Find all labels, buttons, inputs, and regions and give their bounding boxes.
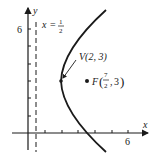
vertex-label: V(2, 3): [79, 51, 107, 63]
svg-text:7: 7: [104, 71, 108, 79]
y-tick-label-6: 6: [17, 24, 22, 35]
svg-text:=: =: [50, 19, 56, 30]
svg-text:2: 2: [59, 27, 63, 35]
directrix-label: x = 1 2: [41, 18, 64, 35]
x-axis: [12, 130, 148, 133]
y-axis-label: y: [32, 5, 38, 16]
svg-text:): ): [120, 74, 124, 89]
x-axis-label: x: [142, 119, 148, 130]
vertex-point: [59, 79, 63, 83]
svg-text:F: F: [91, 76, 99, 87]
svg-text:(: (: [99, 74, 103, 89]
x-tick-label-6: 6: [125, 136, 130, 147]
svg-text:x: x: [41, 19, 47, 30]
svg-text:2: 2: [104, 82, 108, 90]
svg-text:,: ,: [110, 76, 113, 87]
focus-label: F ( 7 2 , 3 ): [91, 71, 124, 90]
svg-text:3: 3: [114, 76, 119, 87]
parabola-diagram: x 6 y 6 x = 1 2 V(2, 3) F ( 7 2 , 3 ): [0, 0, 153, 159]
focus-point: [85, 79, 89, 83]
y-axis: [28, 8, 31, 150]
svg-text:1: 1: [59, 18, 63, 26]
